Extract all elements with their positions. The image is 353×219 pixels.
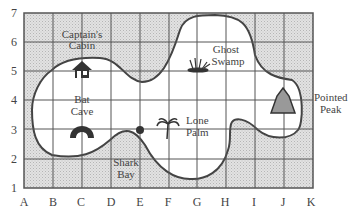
column-label: I <box>252 195 256 209</box>
svg-text:Bay: Bay <box>117 168 135 180</box>
y-axis: 1 2 3 4 5 6 7 <box>11 6 17 195</box>
svg-text:Pointed: Pointed <box>314 91 348 103</box>
treasure-map: 1 2 3 4 5 6 7 A B C D E F G H I J K Capt… <box>0 0 353 219</box>
row-label: 3 <box>11 123 17 137</box>
svg-text:Swamp: Swamp <box>212 55 246 67</box>
row-label: 1 <box>11 181 17 195</box>
svg-text:Cabin: Cabin <box>69 39 96 51</box>
column-label: A <box>20 195 29 209</box>
column-label: D <box>107 195 116 209</box>
column-label: E <box>136 195 143 209</box>
column-label: K <box>307 195 316 209</box>
svg-text:Peak: Peak <box>320 103 342 115</box>
column-label: F <box>165 195 172 209</box>
column-label: H <box>221 195 230 209</box>
row-label: 2 <box>11 152 17 166</box>
column-label: G <box>193 195 202 209</box>
svg-text:Shark: Shark <box>113 156 139 168</box>
dot-marker-icon <box>136 126 144 134</box>
x-axis: A B C D E F G H I J K <box>20 195 316 209</box>
row-label: 4 <box>11 93 17 107</box>
svg-text:Cave: Cave <box>71 105 94 117</box>
column-label: J <box>281 195 286 209</box>
svg-text:Palm: Palm <box>186 126 209 138</box>
row-label: 6 <box>11 35 17 49</box>
svg-text:Lone: Lone <box>186 114 209 126</box>
row-label: 7 <box>11 6 17 20</box>
column-label: B <box>49 195 57 209</box>
row-label: 5 <box>11 64 17 78</box>
svg-text:Bat: Bat <box>74 93 89 105</box>
column-label: C <box>77 195 85 209</box>
svg-text:Ghost: Ghost <box>213 43 239 55</box>
